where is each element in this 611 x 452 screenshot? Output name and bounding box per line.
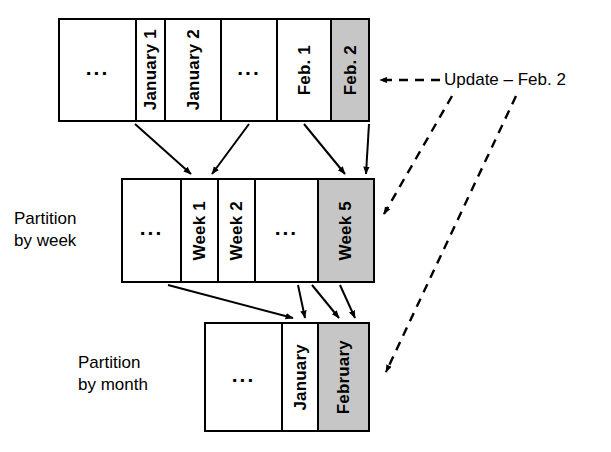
arrow-update-to-month-row (386, 96, 516, 372)
cell-day-january-2: January 2 (166, 20, 222, 120)
cell-week-ellipsis-2: ... (256, 180, 319, 281)
cell-label: ... (86, 57, 110, 84)
update-annotation-label: Update – Feb. 2 (444, 70, 566, 90)
arrows-week-to-month (168, 285, 355, 318)
cell-label: Feb. 1 (296, 45, 313, 95)
partition-by-month-caption: Partition by month (78, 352, 198, 396)
arrow-week-ellipsis-to-january (168, 285, 293, 318)
cell-month-january: January (283, 324, 319, 430)
partition-by-week-caption: Partition by week (14, 208, 114, 252)
cell-day-ellipsis-2: ... (222, 20, 278, 120)
cell-week-2: Week 2 (219, 180, 256, 281)
cell-label: ... (140, 217, 164, 244)
partition-row-day: ... January 1 January 2 ... Feb. 1 Feb. … (58, 18, 370, 122)
cell-label: ... (237, 57, 261, 84)
cell-month-february: February (319, 324, 368, 430)
arrow-week5-to-february (312, 285, 339, 318)
cell-label: Week 1 (191, 201, 208, 260)
cell-label: ... (275, 217, 299, 244)
cell-day-january-1: January 1 (137, 20, 166, 120)
arrow-week5-right-to-february (340, 285, 355, 318)
cell-day-feb-2: Feb. 2 (332, 20, 368, 120)
cell-label: January 2 (185, 29, 202, 110)
cell-label: January 1 (142, 29, 159, 110)
cell-label: Feb. 2 (342, 45, 359, 95)
cell-label: January (292, 344, 309, 411)
cell-week-5: Week 5 (319, 180, 373, 281)
arrow-feb2-to-week5 (366, 124, 369, 174)
arrow-feb1-to-week5 (304, 124, 345, 174)
cell-month-ellipsis: ... (206, 324, 283, 430)
cell-week-1: Week 1 (182, 180, 218, 281)
cell-label: ... (232, 364, 256, 391)
cell-label: Week 2 (228, 201, 245, 260)
arrow-update-to-week-row (384, 96, 452, 214)
arrow-jan1-to-week1 (135, 124, 191, 174)
cell-label: Week 5 (337, 201, 354, 260)
cell-day-ellipsis-1: ... (60, 20, 137, 120)
cell-label: February (335, 340, 352, 414)
arrow-week-to-january (298, 285, 305, 318)
diagram-canvas: ... January 1 January 2 ... Feb. 1 Feb. … (0, 0, 611, 452)
arrow-ellipsis-to-week1 (212, 124, 249, 174)
cell-day-feb-1: Feb. 1 (278, 20, 332, 120)
arrows-update-dashed (380, 80, 516, 372)
arrows-day-to-week (135, 124, 369, 174)
partition-row-month: ... January February (204, 322, 370, 432)
cell-week-ellipsis-1: ... (123, 180, 182, 281)
partition-row-week: ... Week 1 Week 2 ... Week 5 (121, 178, 375, 283)
